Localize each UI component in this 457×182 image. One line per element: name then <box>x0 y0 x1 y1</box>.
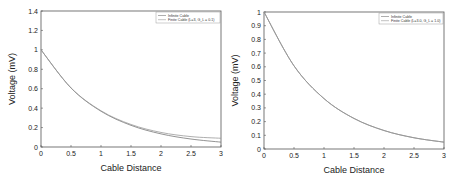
y-axis-label: Voltage (mV) <box>7 53 17 105</box>
x-tick-label: 1 <box>322 152 326 159</box>
y-tick-label: 0.3 <box>251 104 261 111</box>
y-tick-label: 1 <box>257 9 261 16</box>
y-tick-label: 0.9 <box>251 22 261 29</box>
legend-entry: Finite Cable (L=3.0, G_L = 1.0) <box>391 19 440 23</box>
x-tick-label: 0 <box>262 152 266 159</box>
x-tick-label: 2.5 <box>409 152 419 159</box>
x-tick-label: 2 <box>159 150 163 157</box>
y-tick-label: 0 <box>257 146 261 153</box>
x-tick-label: 3 <box>219 150 223 157</box>
legend: Infinite CableFinite Cable (L=3.0, G_L =… <box>379 13 443 24</box>
plot-area <box>41 11 221 147</box>
x-tick-label: 2 <box>382 152 386 159</box>
y-tick-label: 0.8 <box>28 66 38 73</box>
x-tick-label: 2.5 <box>186 150 196 157</box>
x-tick-label: 0.5 <box>66 150 76 157</box>
series-line-2 <box>264 12 444 142</box>
x-tick-label: 1 <box>99 150 103 157</box>
y-tick-label: 0.7 <box>251 50 261 57</box>
y-tick-label: 0.2 <box>28 124 38 131</box>
figure: 00.511.522.5300.20.40.60.811.21.4Cable D… <box>0 0 457 182</box>
y-tick-label: 0.8 <box>251 36 261 43</box>
y-tick-label: 1.2 <box>28 27 38 34</box>
y-tick-label: 1 <box>34 46 38 53</box>
y-tick-label: 1.4 <box>28 8 38 15</box>
x-tick-label: 1.5 <box>126 150 136 157</box>
x-tick-label: 0 <box>39 150 43 157</box>
legend-entry: Finite Cable (L=3, G_L = 0.1) <box>168 18 214 22</box>
y-tick-label: 0.2 <box>251 118 261 125</box>
legend: Infinite CableFinite Cable (L=3, G_L = 0… <box>156 12 220 23</box>
x-tick-label: 3 <box>442 152 446 159</box>
series-line-1 <box>41 50 221 142</box>
chart-2: 00.511.522.5300.10.20.30.40.50.60.70.80.… <box>230 9 446 176</box>
y-tick-label: 0 <box>34 144 38 151</box>
y-tick-label: 0.1 <box>251 132 261 139</box>
x-axis-label: Cable Distance <box>323 165 384 175</box>
x-axis-label: Cable Distance <box>100 163 161 173</box>
y-axis-label: Voltage (mV) <box>230 54 240 106</box>
x-tick-label: 1.5 <box>349 152 359 159</box>
chart-1: 00.511.522.5300.20.40.60.811.21.4Cable D… <box>7 8 223 174</box>
y-tick-label: 0.4 <box>28 105 38 112</box>
plot-area <box>264 12 444 149</box>
y-tick-label: 0.6 <box>28 85 38 92</box>
y-tick-label: 0.5 <box>251 77 261 84</box>
y-tick-label: 0.4 <box>251 91 261 98</box>
series-line-1 <box>264 12 444 142</box>
y-tick-label: 0.6 <box>251 63 261 70</box>
x-tick-label: 0.5 <box>289 152 299 159</box>
